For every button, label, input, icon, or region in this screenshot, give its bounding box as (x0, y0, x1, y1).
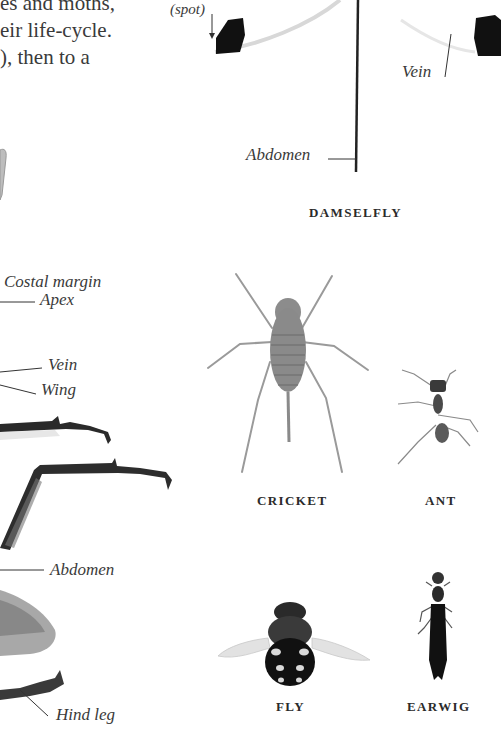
earwig-illustration (0, 0, 501, 729)
caption-earwig: EARWIG (407, 699, 471, 715)
